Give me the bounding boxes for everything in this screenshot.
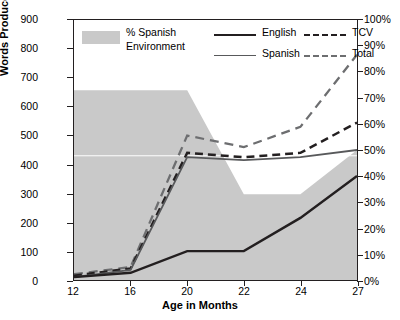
y-tick-mark-left — [67, 281, 73, 282]
chart-container: Words Produced 0100200300400500600700800… — [0, 0, 400, 320]
y-tick-label-right: 100% — [364, 13, 400, 25]
legend-label-line1: % Spanish — [126, 26, 176, 38]
x-tick-mark — [244, 281, 245, 286]
y-tick-label-right: 20% — [364, 223, 400, 235]
y-tick-label-left: 200 — [8, 217, 38, 229]
y-tick-label-left: 0 — [8, 275, 38, 287]
x-tick-mark — [187, 281, 188, 286]
y-tick-label-left: 800 — [8, 42, 38, 54]
x-tick-label: 16 — [110, 285, 150, 297]
legend-label-english: English — [262, 26, 296, 38]
legend-label-tcv: TCV — [352, 26, 373, 38]
legend-line-total-icon — [304, 55, 346, 57]
y-tick-label-right: 50% — [364, 144, 400, 156]
y-tick-label-left: 900 — [8, 13, 38, 25]
y-tick-label-right: 30% — [364, 196, 400, 208]
y-tick-label-right: 60% — [364, 118, 400, 130]
y-tick-label-right: 40% — [364, 170, 400, 182]
x-tick-label: 24 — [281, 285, 321, 297]
x-tick-label: 12 — [53, 285, 93, 297]
legend-swatch-spanish-environment — [82, 31, 120, 44]
legend-label-spanish: Spanish — [262, 47, 300, 59]
x-tick-mark — [130, 281, 131, 286]
y-tick-label-left: 400 — [8, 159, 38, 171]
x-tick-mark — [301, 281, 302, 286]
legend-line-spanish-icon — [214, 55, 256, 56]
y-tick-label-left: 600 — [8, 100, 38, 112]
legend-label-line2: Environment — [126, 40, 185, 52]
y-tick-label-left: 100 — [8, 246, 38, 258]
y-tick-label-right: 10% — [364, 249, 400, 261]
x-axis-title: Age in Months — [0, 299, 400, 311]
legend-label-total: Total — [352, 47, 374, 59]
y-tick-label-left: 700 — [8, 71, 38, 83]
y-tick-label-right: 80% — [364, 65, 400, 77]
x-tick-mark — [358, 281, 359, 286]
y-tick-label-left: 500 — [8, 129, 38, 141]
legend-line-tcv-icon — [304, 34, 346, 36]
legend-label-spanish-environment: % Spanish Environment — [126, 26, 212, 53]
x-tick-label: 27 — [338, 285, 378, 297]
x-tick-label: 22 — [224, 285, 264, 297]
legend-line-english-icon — [214, 34, 256, 36]
y-tick-label-left: 300 — [8, 188, 38, 200]
x-tick-label: 20 — [167, 285, 207, 297]
chart-legend: % Spanish Environment English Spanish TC… — [82, 26, 332, 68]
y-tick-label-right: 70% — [364, 92, 400, 104]
